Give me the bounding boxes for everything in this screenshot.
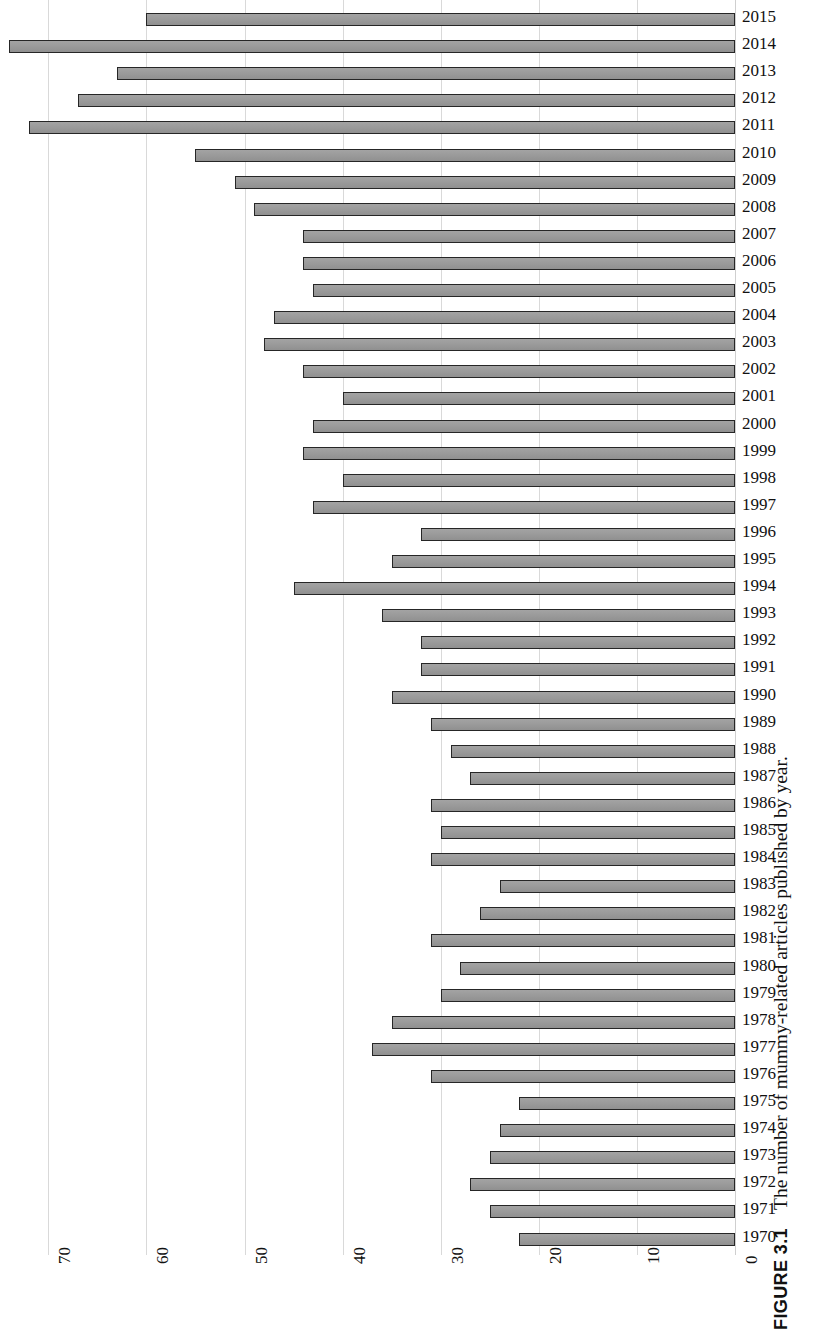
y-axis-label-1992: 1992: [742, 630, 776, 650]
bar-1971: [490, 1205, 735, 1218]
bar-1972: [470, 1178, 735, 1191]
bar-1997: [313, 501, 735, 514]
bar-1979: [441, 989, 735, 1002]
chart-bar-rows: 2015201420132012201120102009200820072006…: [0, 0, 760, 1255]
bar-1984: [431, 853, 735, 866]
chart-row: 1974: [0, 1117, 760, 1144]
figure-number: FIGURE 3.1: [771, 1228, 791, 1330]
bar-2013: [117, 67, 735, 80]
bar-2004: [274, 311, 735, 324]
chart-row: 2000: [0, 413, 760, 440]
y-axis-label-2005: 2005: [742, 278, 776, 298]
y-axis-label-1989: 1989: [742, 712, 776, 732]
bar-1970: [519, 1233, 735, 1246]
chart-row: 1992: [0, 629, 760, 656]
bar-1996: [421, 528, 735, 541]
bar-2008: [254, 203, 735, 216]
chart-row: 1973: [0, 1144, 760, 1171]
chart-row: 2010: [0, 142, 760, 169]
y-axis-label-2007: 2007: [742, 224, 776, 244]
chart-row: 2008: [0, 196, 760, 223]
y-axis-label-2000: 2000: [742, 414, 776, 434]
chart-row: 1994: [0, 575, 760, 602]
chart-row: 2004: [0, 304, 760, 331]
bar-1989: [431, 718, 735, 731]
bar-1981: [431, 934, 735, 947]
chart-row: 1986: [0, 792, 760, 819]
chart-row: 1993: [0, 602, 760, 629]
bar-1975: [519, 1097, 735, 1110]
bar-1978: [392, 1016, 735, 1029]
bar-1980: [460, 962, 735, 975]
bar-1993: [382, 609, 735, 622]
bar-1986: [431, 799, 735, 812]
bar-1992: [421, 636, 735, 649]
y-axis-label-2012: 2012: [742, 88, 776, 108]
chart-row: 1982: [0, 900, 760, 927]
chart-row: 2005: [0, 277, 760, 304]
chart-row: 1979: [0, 982, 760, 1009]
y-axis-label-1991: 1991: [742, 657, 776, 677]
bar-2005: [313, 284, 735, 297]
x-tick-10: 10: [644, 1247, 664, 1264]
y-axis-label-1999: 1999: [742, 441, 776, 461]
bar-2003: [264, 338, 735, 351]
bar-2006: [303, 257, 735, 270]
bar-chart-plot-area: 2015201420132012201120102009200820072006…: [0, 0, 760, 1255]
y-axis-label-2002: 2002: [742, 359, 776, 379]
chart-row: 2015: [0, 6, 760, 33]
bar-2015: [146, 13, 735, 26]
y-axis-label-1993: 1993: [742, 603, 776, 623]
y-axis-label-2008: 2008: [742, 197, 776, 217]
x-tick-60: 60: [153, 1247, 173, 1264]
chart-row: 2002: [0, 358, 760, 385]
y-axis-label-2014: 2014: [742, 34, 776, 54]
chart-row: 1976: [0, 1063, 760, 1090]
chart-row: 1980: [0, 955, 760, 982]
y-axis-label-1995: 1995: [742, 549, 776, 569]
bar-2010: [195, 149, 735, 162]
chart-row: 1985: [0, 819, 760, 846]
bar-1995: [392, 555, 735, 568]
chart-row: 1983: [0, 873, 760, 900]
bar-1977: [372, 1043, 735, 1056]
chart-row: 2013: [0, 60, 760, 87]
chart-row: 1991: [0, 656, 760, 683]
chart-row: 2012: [0, 87, 760, 114]
y-axis-label-2015: 2015: [742, 7, 776, 27]
bar-1987: [470, 772, 735, 785]
bar-1990: [392, 691, 735, 704]
bar-1999: [303, 447, 735, 460]
x-tick-30: 30: [448, 1247, 468, 1264]
chart-row: 1997: [0, 494, 760, 521]
bar-2009: [235, 176, 735, 189]
x-tick-70: 70: [55, 1247, 75, 1264]
bar-1991: [421, 663, 735, 676]
chart-row: 1972: [0, 1171, 760, 1198]
bar-2014: [9, 40, 735, 53]
y-axis-label-1990: 1990: [742, 685, 776, 705]
y-axis-label-2003: 2003: [742, 332, 776, 352]
figure-root: 2015201420132012201120102009200820072006…: [0, 0, 834, 1341]
y-axis-label-2001: 2001: [742, 386, 776, 406]
y-axis-label-2006: 2006: [742, 251, 776, 271]
chart-row: 1981: [0, 927, 760, 954]
y-axis-label-2010: 2010: [742, 143, 776, 163]
chart-row: 1989: [0, 711, 760, 738]
chart-row: 1977: [0, 1036, 760, 1063]
x-axis-tick-labels: 706050403020100: [0, 1258, 760, 1318]
y-axis-label-2013: 2013: [742, 61, 776, 81]
bar-1994: [294, 582, 735, 595]
chart-row: 1990: [0, 684, 760, 711]
chart-row: 2007: [0, 223, 760, 250]
y-axis-label-2009: 2009: [742, 170, 776, 190]
bar-2012: [78, 94, 735, 107]
chart-row: 1995: [0, 548, 760, 575]
y-axis-label-1997: 1997: [742, 495, 776, 515]
chart-row: 2003: [0, 331, 760, 358]
bar-1983: [500, 880, 735, 893]
y-axis-label-1994: 1994: [742, 576, 776, 596]
chart-row: 1998: [0, 467, 760, 494]
chart-row: 2009: [0, 169, 760, 196]
bar-1982: [480, 907, 735, 920]
